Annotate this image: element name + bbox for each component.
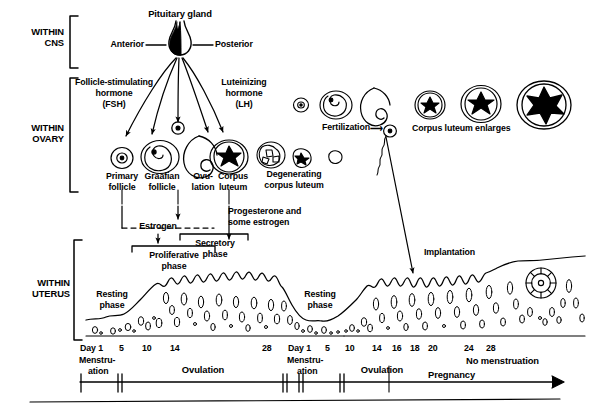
day-label-c1-28: 28: [262, 344, 272, 353]
day-label-c2-1: Day 1: [288, 344, 311, 353]
bracket-cns: [70, 16, 78, 68]
degenerating-cl-label-line2: corpus luteum: [248, 181, 340, 190]
lh-label-line3: (LH): [196, 100, 292, 109]
timeline-axis: [80, 376, 564, 388]
day-label-c2-5: 5: [325, 344, 330, 353]
diagram-canvas: WITHIN CNS WITHIN OVARY WITHIN UTERUS Pi…: [0, 0, 589, 409]
proliferative-phase-label-line2: phase: [126, 262, 222, 271]
sperm-path: [377, 136, 386, 175]
blastocyst-icon: [526, 268, 556, 298]
section-label-ovary-line2: OVARY: [2, 134, 64, 144]
day-label-c1-5: 5: [119, 344, 124, 353]
ovum-track: [294, 98, 309, 112]
section-label-uterus-line1: WITHIN: [2, 278, 70, 288]
corpus-luteum-enlarges-1: [415, 91, 445, 119]
corpus-luteum-enlarges-2: [461, 86, 501, 123]
pituitary-gland: [146, 21, 213, 55]
menstruation-label-c1-line1: Menstru-: [79, 356, 115, 365]
ovulation-label-c1: Ovulation: [145, 365, 261, 375]
primary-follicle-icon: [111, 148, 133, 169]
day-label-c2-14: 14: [372, 344, 382, 353]
progesterone-label-line1: Progesterone and: [228, 207, 338, 216]
corpus-luteum-icon: [210, 140, 248, 174]
pituitary-gland-label: Pituitary gland: [120, 9, 240, 19]
degenerating-corpus-luteum-icon: [257, 142, 285, 168]
day-label-c2-16: 16: [392, 344, 402, 353]
section-label-cns-line2: CNS: [2, 38, 64, 48]
anterior-label: Anterior: [78, 40, 144, 49]
secretory-phase-label-line2: phase: [182, 250, 248, 259]
secretory-phase-label-line1: Secretory: [182, 239, 248, 248]
resting-phase-label-1-line1: Resting: [84, 290, 140, 299]
day-label-c2-28: 28: [486, 344, 496, 353]
day-label-c1-10: 10: [142, 344, 152, 353]
fsh-label-line2: hormone: [52, 89, 176, 98]
day-label-c2-18: 18: [410, 344, 420, 353]
fertilization-label: Fertilization: [288, 123, 370, 132]
menstruation-label-c1-line2: ation: [88, 367, 109, 376]
no-menstruation-label: No menstruation: [466, 356, 539, 366]
fsh-label-line3: (FSH): [52, 100, 176, 109]
endometrium-glands-cycle2: [345, 280, 585, 333]
resting-phase-label-2-line1: Resting: [292, 290, 348, 299]
corpus-luteum-enlarges-label: Corpus luteum enlarges: [412, 124, 572, 133]
lh-label-line2: hormone: [196, 89, 292, 98]
ovulation-icon: [172, 122, 217, 178]
pregnancy-label: Pregnancy: [428, 370, 475, 380]
section-label-ovary-line1: WITHIN: [2, 123, 64, 133]
fsh-label-line1: Follicle-stimulating: [52, 78, 176, 87]
progesterone-label-line2: some estrogen: [228, 218, 338, 227]
section-label-cns-line1: WITHIN: [2, 27, 64, 37]
degenerating-cl-label-line1: Degenerating: [248, 170, 340, 179]
menstruation-label-c2-line1: Menstru-: [287, 356, 323, 365]
bracket-uterus: [74, 240, 82, 340]
day-label-c1-14: 14: [170, 344, 180, 353]
lh-label-line1: Luteinizing: [196, 78, 292, 87]
day-label-c1-1: Day 1: [80, 344, 103, 353]
corpus-albicans-icon: [293, 149, 311, 168]
corpus-luteum-enlarges-3: [517, 81, 571, 129]
ovulation-label-c2: Ovulation: [342, 365, 422, 375]
implantation-arrow: [386, 137, 413, 273]
estrogen-label: Estrogen: [126, 222, 190, 231]
posterior-label: Posterior: [215, 40, 285, 49]
resting-phase-label-2-line2: phase: [292, 301, 348, 310]
ovum-remnant-icon: [329, 151, 342, 164]
resting-phase-label-1-line2: phase: [84, 301, 140, 310]
graafian-follicle-right-icon: [320, 91, 352, 119]
bottom-rule: [30, 399, 560, 402]
fertilization-arrow-glyph: ⟶: [370, 124, 386, 133]
day-label-c2-24: 24: [464, 344, 474, 353]
day-label-c2-10: 10: [345, 344, 355, 353]
menstruation-label-c2-line2: ation: [297, 367, 318, 376]
ovulation-right-icon: [361, 88, 390, 126]
implantation-label: Implantation: [424, 248, 524, 257]
graafian-follicle-icon: [141, 141, 179, 174]
section-label-uterus-line2: UTERUS: [2, 289, 70, 299]
day-label-c2-20: 20: [428, 344, 438, 353]
